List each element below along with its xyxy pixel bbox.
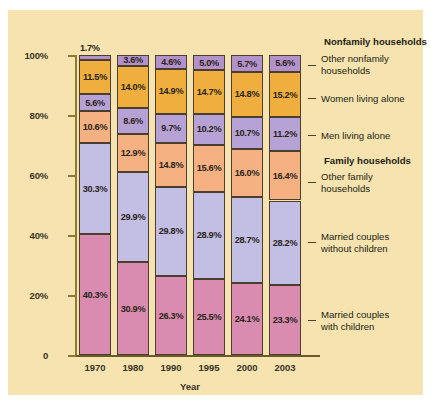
segment-1990-married-with-children: 26.3% [155,276,187,355]
segment-2003-men-alone: 11.2% [269,117,301,151]
segment-1990-married-no-children: 29.8% [155,187,187,276]
legend-dash-other-nonfamily [308,65,316,66]
segment-2003-married-with-children: 23.3% [269,285,301,355]
bar-1970: 1.7% 11.5% 5.6% 10.6% 30.3% 40.3% [79,55,111,355]
segment-1970-married-with-children: 40.3% [79,234,111,355]
segment-1990-other-nonfamily: 4.6% [155,55,187,69]
legend-item-married-with-children[interactable]: Married couples with children [321,309,389,332]
x-tick-label-2003: 2003 [266,362,304,373]
legend-heading-family: Family households [324,155,411,166]
legend-dash-men-alone [308,135,316,136]
segment-1980-other-family: 12.9% [117,134,149,173]
segment-1990-women-alone: 14.9% [155,69,187,114]
segment-1995-women-alone: 14.7% [193,70,225,114]
x-tick-label-1970: 1970 [76,362,114,373]
y-tick-label-40: 40% [30,230,48,241]
segment-1995-married-no-children: 28.9% [193,192,225,279]
segment-2000-other-family: 16.0% [231,149,263,197]
y-tick-60 [68,175,76,177]
legend-label-married-no-children-line2: without children [321,243,389,255]
y-tick-label-60: 60% [30,170,48,181]
bar-2000: 5.7% 14.8% 10.7% 16.0% 28.7% 24.1% [231,55,263,355]
segment-1995-men-alone: 10.2% [193,114,225,145]
bar-2003: 5.6% 15.2% 11.2% 16.4% 28.2% 23.3% [269,55,301,355]
y-tick-label-20: 20% [30,290,48,301]
legend-dash-married-no-children [308,242,316,243]
legend-label-other-family-line2: households [321,183,373,195]
segment-1980-married-no-children: 29.9% [117,172,149,262]
segment-2000-married-no-children: 28.7% [231,197,263,283]
segment-1970-other-family: 10.6% [79,111,111,143]
legend-label-women-alone: Women living alone [321,93,405,105]
segment-1995-other-nonfamily: 5.0% [193,55,225,70]
segment-1970-men-alone: 5.6% [79,94,111,111]
plot-area: 1.7% 11.5% 5.6% 10.6% 30.3% 40.3% 3.6% 1… [76,55,304,355]
legend-item-women-alone[interactable]: Women living alone [321,93,405,105]
legend-label-married-no-children-line1: Married couples [321,231,389,243]
legend-item-men-alone[interactable]: Men living alone [321,130,390,142]
x-tick-label-1995: 1995 [190,362,228,373]
y-tick-label-100: 100% [25,50,49,61]
legend-label-men-alone: Men living alone [321,130,390,142]
segment-1970-women-alone: 11.5% [79,60,111,95]
segment-1980-other-nonfamily: 3.6% [117,55,149,66]
segment-2000-married-with-children: 24.1% [231,283,263,355]
bar-1995: 5.0% 14.7% 10.2% 15.6% 28.9% 25.5% [193,55,225,355]
legend-label-other-nonfamily-line1: Other nonfamily [321,53,389,65]
segment-1980-married-with-children: 30.9% [117,262,149,355]
y-tick-0 [68,355,76,357]
chart-card: % of Households Year 100% 80% 60% 40% 20… [8,10,423,395]
legend-item-married-no-children[interactable]: Married couples without children [321,231,389,254]
legend-dash-women-alone [308,98,316,99]
legend-item-other-family[interactable]: Other family households [321,171,373,194]
segment-2003-other-nonfamily: 5.6% [269,55,301,72]
legend-label-other-family-line1: Other family [321,171,373,183]
legend-label-married-with-children-line2: with children [321,321,389,333]
segment-1980-women-alone: 14.0% [117,66,149,108]
segment-1995-married-with-children: 25.5% [193,279,225,356]
bar-1990: 4.6% 14.9% 9.7% 14.8% 29.8% 26.3% [155,55,187,355]
segment-1995-other-family: 15.6% [193,145,225,192]
y-tick-label-80: 80% [30,110,48,121]
segment-1990-men-alone: 9.7% [155,114,187,143]
x-tick-label-1990: 1990 [152,362,190,373]
segment-2003-married-no-children: 28.2% [269,201,301,286]
x-tick-label-1980: 1980 [114,362,152,373]
y-tick-20 [68,295,76,297]
segment-2000-men-alone: 10.7% [231,117,263,149]
segment-1980-men-alone: 8.6% [117,108,149,134]
legend-label-married-with-children-line1: Married couples [321,309,389,321]
legend-heading-nonfamily: Nonfamily households [324,36,427,47]
segment-2003-women-alone: 15.2% [269,72,301,118]
callout-label-1970-other-nonfamily: 1.7% [80,43,100,53]
legend-dash-married-with-children [308,320,316,321]
bar-1980: 3.6% 14.0% 8.6% 12.9% 29.9% 30.9% [117,55,149,355]
legend-label-other-nonfamily-line2: households [321,65,389,77]
legend-item-other-nonfamily[interactable]: Other nonfamily households [321,53,389,76]
segment-1990-other-family: 14.8% [155,143,187,187]
chart-figure: % of Households Year 100% 80% 60% 40% 20… [0,0,431,413]
y-tick-80 [68,115,76,117]
x-axis-line [75,355,320,357]
segment-2000-other-nonfamily: 5.7% [231,55,263,72]
x-axis-title: Year [76,381,304,392]
y-tick-100 [68,55,76,57]
x-tick-label-2000: 2000 [228,362,266,373]
segment-1970-married-no-children: 30.3% [79,143,111,234]
segment-2003-other-family: 16.4% [269,151,301,200]
y-tick-40 [68,235,76,237]
y-tick-label-0: 0 [43,350,48,361]
segment-2000-women-alone: 14.8% [231,72,263,116]
legend-dash-other-family [308,182,316,183]
